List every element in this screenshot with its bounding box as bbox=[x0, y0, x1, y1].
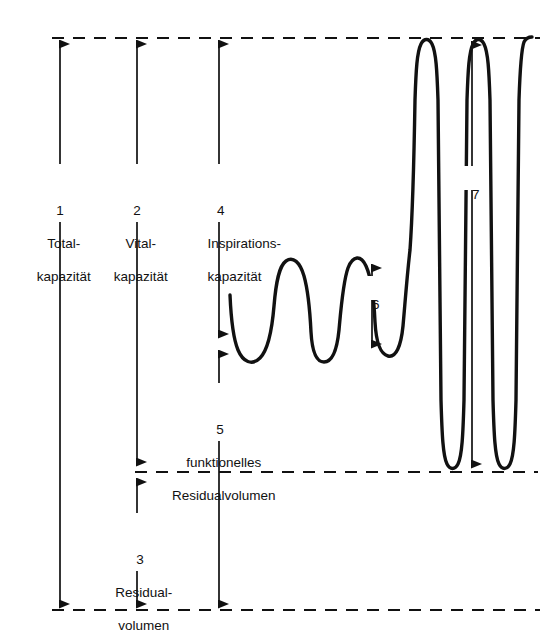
label-vitalkapazitaet-line1: Vital- bbox=[126, 236, 157, 251]
label-vitalkapazitaet-line2: kapazität bbox=[114, 269, 168, 284]
label-funktionelles-residualvolumen-line1: funktionelles bbox=[186, 455, 261, 470]
label-totalkapazitaet-line1: Total- bbox=[47, 236, 80, 251]
label-exspiratorisches-reservevolumen-number: 7 bbox=[472, 187, 480, 202]
label-atemzugvolumen-number: 6 bbox=[372, 297, 380, 312]
label-totalkapazitaet-line2: kapazität bbox=[37, 269, 91, 284]
label-inspirationskapazitaet-line2: kapazität bbox=[208, 269, 262, 284]
label-funktionelles-residualvolumen-number: 5 bbox=[164, 422, 275, 439]
spirogram-diagram bbox=[0, 0, 553, 635]
label-atemzugvolumen: 6 bbox=[364, 280, 379, 313]
label-funktionelles-residualvolumen: 5 funktionelles Residualvolumen bbox=[164, 389, 275, 505]
label-inspirationskapazitaet-number: 4 bbox=[217, 203, 281, 220]
label-exspiratorisches-reservevolumen: 7 bbox=[464, 170, 479, 203]
label-funktionelles-residualvolumen-line2: Residualvolumen bbox=[172, 488, 276, 503]
label-totalkapazitaet-number: 1 bbox=[29, 203, 91, 220]
label-residualvolumen-line2: volumen bbox=[118, 618, 169, 633]
label-inspirationskapazitaet-line1: Inspirations- bbox=[208, 236, 282, 251]
label-totalkapazitaet: 1 Total- kapazität bbox=[29, 170, 91, 286]
label-residualvolumen-line1: Residual- bbox=[115, 585, 172, 600]
label-residualvolumen-number: 3 bbox=[108, 552, 173, 569]
label-residualvolumen: 3 Residual- volumen bbox=[108, 519, 173, 635]
label-vitalkapazitaet: 2 Vital- kapazität bbox=[106, 170, 168, 286]
label-inspirationskapazitaet: 4 Inspirations- kapazität bbox=[200, 170, 281, 286]
label-vitalkapazitaet-number: 2 bbox=[106, 203, 168, 220]
